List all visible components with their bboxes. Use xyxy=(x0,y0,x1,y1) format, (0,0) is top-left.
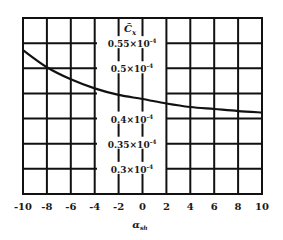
x-tick-label: 10 xyxy=(255,201,269,212)
y-tick-label: 0.4×10-4 xyxy=(111,113,153,125)
y-axis-label: C̃x xyxy=(124,23,137,37)
y-tick-label: 0.3×10-4 xyxy=(111,163,153,175)
y-tick-label: 0.35×10-4 xyxy=(108,138,157,150)
x-tick-label: 0 xyxy=(139,201,146,212)
x-tick-label: 4 xyxy=(187,201,194,212)
x-tick-label: 6 xyxy=(211,201,218,212)
x-axis-label: αsh xyxy=(132,219,147,231)
x-tick-labels: -10-8-6-4-20246810 xyxy=(14,201,269,212)
x-tick-label: -4 xyxy=(89,201,100,212)
x-tick-label: -8 xyxy=(41,201,52,212)
y-tick-labels: 0.3×10-40.35×10-40.4×10-40.5×10-40.55×10… xyxy=(108,37,157,175)
x-tick-label: -2 xyxy=(113,201,124,212)
x-tick-label: -10 xyxy=(14,201,32,212)
x-tick-label: 8 xyxy=(235,201,242,212)
y-tick-label: 0.5×10-4 xyxy=(111,62,153,74)
chart: 0.3×10-40.35×10-40.4×10-40.5×10-40.55×10… xyxy=(0,0,283,240)
x-tick-label: 2 xyxy=(163,201,170,212)
x-tick-label: -6 xyxy=(65,201,76,212)
y-tick-label: 0.55×10-4 xyxy=(108,37,157,49)
